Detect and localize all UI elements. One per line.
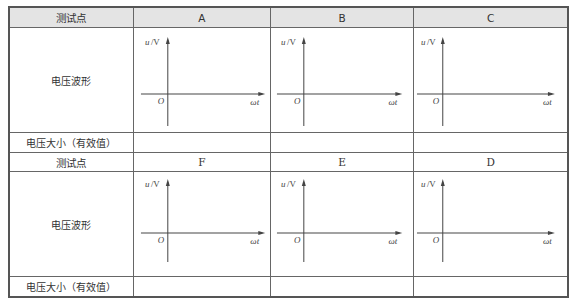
svg-text:/V: /V xyxy=(427,179,436,189)
svg-text:u: u xyxy=(421,179,426,189)
waveform-label: 电压波形 xyxy=(9,172,133,277)
axes-plot-b: u/V O ωt xyxy=(271,28,413,132)
svg-text:u: u xyxy=(281,37,286,47)
waveform-cell-c[interactable]: u/V O ωt xyxy=(414,28,568,133)
y-axis-arrow-icon xyxy=(441,179,445,186)
y-axis-arrow-icon xyxy=(302,179,306,186)
x-axis-arrow-icon xyxy=(548,231,555,235)
svg-text:/V: /V xyxy=(151,179,160,189)
header-row-top: 测试点 A B C xyxy=(9,7,568,28)
svg-text:/V: /V xyxy=(287,179,296,189)
waveform-cell-a[interactable]: u/V O ωt xyxy=(133,28,270,133)
magnitude-label: 电压大小（有效值） xyxy=(9,133,133,153)
svg-text:u: u xyxy=(145,37,150,47)
axes-plot-c: u/V O ωt xyxy=(414,28,567,132)
svg-text:u: u xyxy=(281,179,286,189)
magnitude-cell-f[interactable] xyxy=(133,277,270,298)
svg-text:O: O xyxy=(433,235,440,245)
waveform-cell-f[interactable]: u/V O ωt xyxy=(133,172,270,277)
axes-plot-d: u/V O ωt xyxy=(414,172,567,276)
svg-text:ωt: ωt xyxy=(250,97,259,107)
svg-text:O: O xyxy=(294,96,301,106)
waveform-cell-d[interactable]: u/V O ωt xyxy=(414,172,568,277)
y-axis-arrow-icon xyxy=(166,37,170,44)
waveform-row-top: 电压波形 u/V O ωt xyxy=(9,28,568,133)
axes-plot-e: u/V O ωt xyxy=(271,172,413,276)
magnitude-cell-a[interactable] xyxy=(133,133,270,153)
test-point-e: E xyxy=(270,153,413,172)
svg-text:/V: /V xyxy=(151,37,160,47)
test-point-d: D xyxy=(414,153,568,172)
svg-text:ωt: ωt xyxy=(388,97,397,107)
svg-text:ωt: ωt xyxy=(543,236,552,246)
axes-plot-a: u/V O ωt xyxy=(134,28,270,132)
test-point-header: 测试点 xyxy=(9,7,133,28)
magnitude-cell-c[interactable] xyxy=(414,133,568,153)
magnitude-row-top: 电压大小（有效值） xyxy=(9,133,568,153)
x-axis-arrow-icon xyxy=(548,92,555,96)
x-axis-arrow-icon xyxy=(258,92,265,96)
magnitude-row-bottom: 电压大小（有效值） xyxy=(9,277,568,298)
svg-text:/V: /V xyxy=(427,37,436,47)
waveform-cell-b[interactable]: u/V O ωt xyxy=(270,28,413,133)
svg-text:u: u xyxy=(145,179,150,189)
x-axis-arrow-icon xyxy=(395,92,402,96)
test-point-c: C xyxy=(414,7,568,28)
svg-text:ωt: ωt xyxy=(388,236,397,246)
x-axis-arrow-icon xyxy=(395,231,402,235)
magnitude-cell-b[interactable] xyxy=(270,133,413,153)
waveform-row-bottom: 电压波形 u/V O ωt xyxy=(9,172,568,277)
svg-text:ωt: ωt xyxy=(250,236,259,246)
x-axis-arrow-icon xyxy=(258,231,265,235)
magnitude-cell-d[interactable] xyxy=(414,277,568,298)
test-point-a: A xyxy=(133,7,270,28)
svg-text:/V: /V xyxy=(287,37,296,47)
svg-text:O: O xyxy=(294,235,301,245)
magnitude-label: 电压大小（有效值） xyxy=(9,277,133,298)
voltage-test-table: 测试点 A B C 电压波形 u/V O ωt xyxy=(8,6,569,298)
test-point-header: 测试点 xyxy=(9,153,133,172)
svg-text:ωt: ωt xyxy=(543,97,552,107)
svg-text:O: O xyxy=(433,96,440,106)
waveform-cell-e[interactable]: u/V O ωt xyxy=(270,172,413,277)
test-point-b: B xyxy=(270,7,413,28)
svg-text:O: O xyxy=(158,235,165,245)
y-axis-arrow-icon xyxy=(441,37,445,44)
y-axis-arrow-icon xyxy=(302,37,306,44)
header-row-bottom: 测试点 F E D xyxy=(9,153,568,172)
waveform-label: 电压波形 xyxy=(9,28,133,133)
axes-plot-f: u/V O ωt xyxy=(134,172,270,276)
svg-text:O: O xyxy=(158,96,165,106)
test-point-f: F xyxy=(133,153,270,172)
y-axis-arrow-icon xyxy=(166,179,170,186)
magnitude-cell-e[interactable] xyxy=(270,277,413,298)
svg-text:u: u xyxy=(421,37,426,47)
